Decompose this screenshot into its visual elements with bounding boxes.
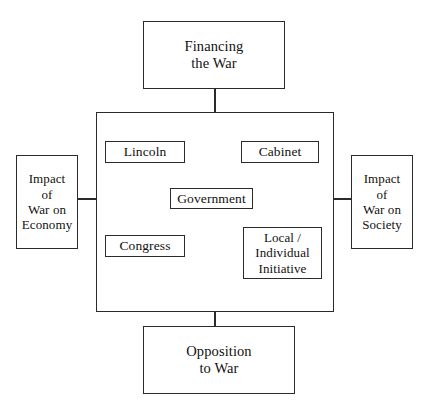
concept-map-diagram: Financing the War Impact of War on Econo…	[0, 0, 431, 411]
node-cabinet-label: Cabinet	[259, 144, 302, 160]
node-impact-of-war-on-economy-label: Impact of War on Economy	[22, 171, 73, 232]
node-government-label: Government	[177, 191, 245, 207]
node-financing-the-war-label: Financing the War	[185, 38, 244, 72]
node-financing-the-war[interactable]: Financing the War	[143, 21, 285, 89]
node-impact-of-war-on-society[interactable]: Impact of War on Society	[351, 155, 413, 249]
node-local-individual-initiative[interactable]: Local / Individual Initiative	[243, 227, 322, 279]
node-impact-of-war-on-society-label: Impact of War on Society	[362, 171, 402, 232]
node-congress[interactable]: Congress	[105, 235, 185, 257]
node-cabinet[interactable]: Cabinet	[241, 141, 319, 163]
node-local-individual-initiative-label: Local / Individual Initiative	[255, 230, 309, 276]
node-lincoln[interactable]: Lincoln	[105, 141, 185, 163]
node-opposition-to-war-label: Opposition to War	[186, 343, 251, 377]
node-government[interactable]: Government	[170, 188, 253, 209]
node-opposition-to-war[interactable]: Opposition to War	[143, 326, 295, 394]
node-lincoln-label: Lincoln	[124, 144, 167, 160]
node-congress-label: Congress	[119, 238, 170, 254]
node-impact-of-war-on-economy[interactable]: Impact of War on Economy	[16, 155, 78, 249]
